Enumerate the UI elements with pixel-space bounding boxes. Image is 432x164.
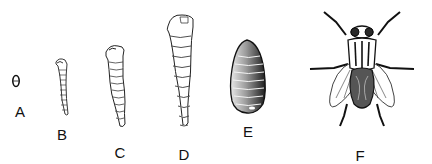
mature-larva-drawing xyxy=(167,15,193,126)
larva-drawing xyxy=(106,46,125,127)
pupa-drawing xyxy=(231,40,266,113)
stage-label-e: E xyxy=(243,124,253,139)
stage-label-c: C xyxy=(115,145,126,160)
life-cycle-figure: A B C D E F xyxy=(0,0,432,164)
stage-label-f: F xyxy=(355,148,364,163)
young-larva-drawing xyxy=(56,59,68,115)
stage-label-a: A xyxy=(15,104,25,119)
stage-label-b: B xyxy=(57,127,67,142)
adult-fly-drawing xyxy=(310,12,414,126)
egg-drawing xyxy=(13,76,19,87)
stage-label-d: D xyxy=(179,147,190,162)
